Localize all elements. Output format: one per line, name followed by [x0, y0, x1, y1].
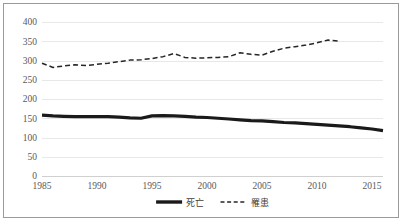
series-line-罹患 — [42, 40, 339, 67]
series-line-死亡 — [42, 115, 383, 130]
gridlines-group — [42, 23, 383, 177]
y-tick-label-150: 150 — [23, 114, 38, 124]
x-tick-label-1985: 1985 — [33, 181, 52, 191]
x-tick-label-1995: 1995 — [143, 181, 162, 191]
legend-label-罹患: 罹患 — [251, 197, 269, 208]
y-tick-label-300: 300 — [23, 56, 38, 66]
chart-figure: 050100150200250300350400 198519901995200… — [0, 0, 403, 222]
x-tick-label-2015: 2015 — [363, 181, 382, 191]
y-tick-label-400: 400 — [23, 17, 38, 27]
x-tick-label-2000: 2000 — [198, 181, 217, 191]
plot-area: 050100150200250300350400 198519901995200… — [0, 0, 403, 222]
y-tick-label-350: 350 — [23, 37, 38, 47]
chart-legend: 死亡罹患 — [156, 197, 268, 208]
y-tick-label-100: 100 — [23, 133, 38, 143]
x-tick-label-2005: 2005 — [253, 181, 272, 191]
y-tick-label-200: 200 — [23, 94, 38, 104]
x-tick-label-1990: 1990 — [88, 181, 107, 191]
x-axis-tick-labels: 1985199019952000200520102015 — [33, 181, 382, 191]
y-tick-label-250: 250 — [23, 75, 38, 85]
y-axis-tick-labels: 050100150200250300350400 — [23, 17, 38, 181]
y-tick-label-50: 50 — [28, 152, 38, 162]
line-chart-svg: 050100150200250300350400 198519901995200… — [0, 0, 403, 222]
x-tick-label-2010: 2010 — [308, 181, 327, 191]
series-lines-group — [42, 40, 383, 130]
legend-label-死亡: 死亡 — [186, 197, 204, 208]
